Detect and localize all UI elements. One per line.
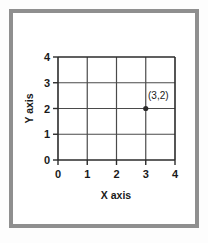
y-tick-label-4: 4	[44, 51, 51, 63]
x-axis-tick-labels: 0 1 2 3 4	[55, 168, 179, 180]
x-tick-label-3: 3	[143, 168, 149, 180]
coordinate-grid-figure: 0 1 2 3 4 0 1 2 3 4 (3,2) X axis Y axis	[0, 0, 208, 243]
x-tick-label-4: 4	[172, 168, 179, 180]
y-tick-label-2: 2	[44, 103, 50, 115]
data-point-label: (3,2)	[148, 90, 169, 101]
screenshot-root: 0 1 2 3 4 0 1 2 3 4 (3,2) X axis Y axis	[0, 0, 208, 243]
data-point-marker[interactable]	[143, 106, 148, 111]
y-tick-label-1: 1	[44, 128, 50, 140]
y-axis-tick-labels: 0 1 2 3 4	[44, 51, 51, 166]
x-tick-label-0: 0	[55, 168, 61, 180]
graph-svg: 0 1 2 3 4 0 1 2 3 4 (3,2) X axis Y axis	[0, 0, 208, 243]
x-tick-label-2: 2	[113, 168, 119, 180]
x-axis-title: X axis	[101, 189, 132, 201]
y-tick-label-3: 3	[44, 77, 50, 89]
x-tick-label-1: 1	[84, 168, 90, 180]
y-tick-label-0: 0	[44, 154, 50, 166]
y-axis-title: Y axis	[23, 93, 35, 123]
